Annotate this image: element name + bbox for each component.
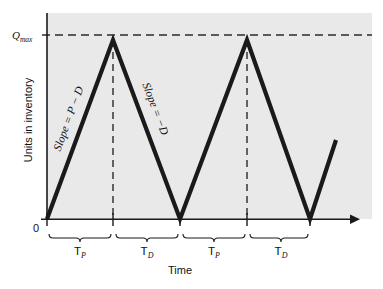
plot-panel [47, 13, 372, 219]
origin-label: 0 [33, 222, 39, 234]
qmax-subscript: max [20, 35, 33, 44]
x-axis-title: Time [168, 264, 192, 276]
inventory-sawtooth-chart: Qmax 0 Units in inventory Time Slope = P… [0, 0, 383, 289]
qmax-symbol: Q [12, 29, 20, 41]
y-axis-title: Units in inventory [22, 77, 34, 162]
